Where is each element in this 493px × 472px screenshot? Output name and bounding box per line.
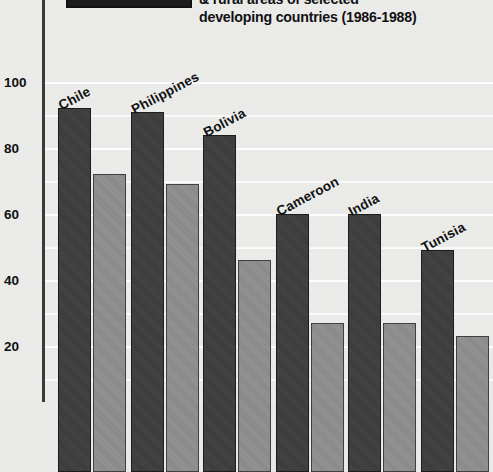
bar-rural-india [383, 323, 416, 472]
gridline-80 [45, 148, 493, 150]
bar-urban-tunisia [421, 250, 454, 472]
bar-rural-tunisia [456, 336, 489, 472]
bar-urban-bolivia [203, 135, 236, 472]
y-axis-tick-40: 40 [4, 273, 19, 288]
bar-rural-cameroon [311, 323, 344, 472]
bar-urban-chile [58, 108, 91, 472]
plot-area: ChilePhilippinesBoliviaCameroonIndiaTuni… [45, 0, 493, 402]
country-label-philippines: Philippines [128, 69, 201, 117]
y-axis-tick-80: 80 [4, 141, 19, 156]
y-axis-tick-60: 60 [4, 207, 19, 222]
y-axis-tick-20: 20 [4, 339, 19, 354]
bar-urban-india [348, 214, 381, 472]
bar-rural-chile [93, 174, 126, 472]
bar-urban-cameroon [276, 214, 309, 472]
bar-rural-philippines [166, 184, 199, 472]
bar-urban-philippines [131, 112, 164, 472]
bar-rural-bolivia [238, 260, 271, 472]
gridline-90 [45, 115, 493, 117]
y-axis-tick-100: 100 [4, 75, 27, 90]
gridline-100 [45, 82, 493, 84]
